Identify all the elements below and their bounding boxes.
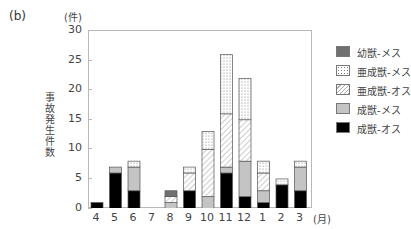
x-tick-label: 10 (197, 211, 217, 224)
bar-segment (258, 173, 270, 191)
x-tick-label: 11 (216, 211, 236, 224)
bar-segment (276, 179, 288, 185)
bar-segment (184, 173, 196, 191)
bar-segment (239, 161, 251, 197)
y-tick-label: 25 (60, 53, 82, 66)
legend-label: 成獣-オス (357, 121, 401, 136)
y-tick-label: 20 (60, 82, 82, 95)
x-tick-label: 1 (253, 211, 273, 224)
bar-segment (239, 197, 251, 208)
bar-segment (128, 167, 140, 191)
x-tick-label: 12 (234, 211, 254, 224)
y-axis-unit: (件) (64, 9, 82, 24)
bar-segment (221, 55, 233, 114)
plot-area (88, 30, 312, 208)
bar-segment (221, 114, 233, 167)
x-axis-unit: (月) (313, 211, 331, 226)
legend-swatch (336, 46, 350, 57)
bar-segment (258, 191, 270, 203)
bar-segment (258, 203, 270, 208)
y-tick-label: 30 (60, 23, 82, 36)
x-tick-label: 9 (179, 211, 199, 224)
y-tick-label: 10 (60, 141, 82, 154)
x-tick-label: 8 (160, 211, 180, 224)
bar-segment (128, 161, 140, 167)
panel-label: (b) (9, 9, 26, 23)
bar-segment (165, 197, 177, 203)
bar-segment (110, 167, 122, 173)
bar-segment (239, 120, 251, 161)
bar-segment (128, 191, 140, 208)
bar-segment (202, 197, 214, 208)
bar-segment (295, 167, 307, 191)
bar-segment (221, 167, 233, 173)
bar-segment (239, 78, 251, 119)
x-tick-label: 6 (123, 211, 143, 224)
legend-label: 幼獣-メス (357, 45, 401, 60)
x-tick-label: 2 (271, 211, 291, 224)
bar-segment (202, 132, 214, 150)
bar-segment (258, 161, 270, 173)
bar-segment (184, 191, 196, 208)
legend-swatch (336, 103, 350, 114)
bar-segment (221, 173, 233, 208)
y-tick-label: 15 (60, 112, 82, 125)
bar-segment (276, 185, 288, 208)
legend-swatch (336, 122, 350, 133)
bar-segment (91, 203, 103, 208)
bar-segment (110, 173, 122, 208)
x-tick-label: 5 (105, 211, 125, 224)
legend-swatch (336, 84, 350, 95)
x-tick-label: 3 (290, 211, 310, 224)
y-tick-label: 0 (60, 201, 82, 214)
legend-swatch (336, 65, 350, 76)
y-tick-label: 5 (60, 171, 82, 184)
bar-segment (202, 149, 214, 196)
x-tick-label: 7 (142, 211, 162, 224)
bar-segment (165, 191, 177, 197)
bar-segment (184, 167, 196, 173)
y-axis-title: 事故発生件数 (44, 92, 56, 158)
bar-segment (165, 203, 177, 208)
legend-label: 亜成獣-オス (357, 83, 411, 98)
bar-segment (295, 191, 307, 208)
stacked-bars (88, 30, 312, 208)
legend-label: 亜成獣-メス (357, 64, 411, 79)
bar-segment (295, 161, 307, 167)
legend-label: 成獣-メス (357, 102, 401, 117)
x-tick-label: 4 (86, 211, 106, 224)
